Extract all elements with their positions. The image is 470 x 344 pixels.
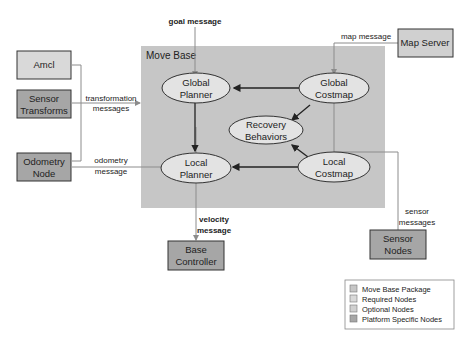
svg-text:message: message bbox=[197, 226, 232, 235]
svg-text:Behaviors: Behaviors bbox=[245, 131, 287, 142]
svg-text:Local: Local bbox=[323, 156, 346, 167]
svg-text:Planner: Planner bbox=[180, 89, 213, 100]
navigation-stack-diagram: Move Base Global Planner Global bbox=[0, 0, 470, 344]
svg-text:Move Base Package: Move Base Package bbox=[362, 285, 431, 294]
sensor-transforms-node: Sensor Transforms bbox=[17, 90, 71, 118]
svg-text:Sensor: Sensor bbox=[383, 233, 413, 244]
local-costmap-node: Local Costmap bbox=[298, 152, 370, 182]
svg-text:Costmap: Costmap bbox=[315, 168, 353, 179]
svg-text:Map Server: Map Server bbox=[400, 37, 449, 48]
svg-text:Global: Global bbox=[182, 77, 209, 88]
velocity-message-label: velocity bbox=[199, 215, 229, 224]
svg-text:Amcl: Amcl bbox=[33, 59, 54, 70]
svg-text:Local: Local bbox=[185, 157, 208, 168]
map-message-label: map message bbox=[341, 32, 392, 41]
svg-text:Required Nodes: Required Nodes bbox=[362, 295, 416, 304]
svg-text:messages: messages bbox=[399, 218, 435, 227]
svg-text:Optional Nodes: Optional Nodes bbox=[362, 305, 414, 314]
svg-text:Transforms: Transforms bbox=[20, 105, 68, 116]
base-controller-node: Base Controller bbox=[168, 241, 224, 270]
svg-text:Node: Node bbox=[33, 168, 56, 179]
svg-text:Nodes: Nodes bbox=[384, 245, 412, 256]
amcl-node: Amcl bbox=[17, 51, 71, 79]
svg-text:Recovery: Recovery bbox=[246, 119, 286, 130]
svg-text:Costmap: Costmap bbox=[315, 89, 353, 100]
map-server-node: Map Server bbox=[398, 29, 453, 57]
svg-text:Planner: Planner bbox=[180, 169, 213, 180]
global-planner-node: Global Planner bbox=[162, 73, 230, 103]
sensor-messages-label: sensor bbox=[405, 207, 429, 216]
legend: Move Base Package Required Nodes Optiona… bbox=[345, 280, 454, 329]
local-planner-node: Local Planner bbox=[161, 153, 231, 183]
odometry-message-label: odometry bbox=[94, 156, 127, 165]
svg-text:Odometry: Odometry bbox=[23, 156, 65, 167]
svg-text:Global: Global bbox=[320, 77, 347, 88]
global-costmap-node: Global Costmap bbox=[299, 73, 369, 103]
svg-text:Sensor: Sensor bbox=[29, 93, 59, 104]
svg-text:Controller: Controller bbox=[175, 256, 216, 267]
svg-text:Base: Base bbox=[185, 244, 207, 255]
recovery-behaviors-node: Recovery Behaviors bbox=[229, 116, 303, 144]
sensor-nodes-node: Sensor Nodes bbox=[370, 230, 426, 259]
transformation-messages-label: transformation bbox=[85, 94, 136, 103]
odometry-node: Odometry Node bbox=[17, 153, 71, 181]
svg-text:messages: messages bbox=[93, 104, 129, 113]
svg-text:Platform Specific Nodes: Platform Specific Nodes bbox=[362, 315, 442, 324]
goal-message-label: goal message bbox=[169, 17, 222, 26]
svg-text:message: message bbox=[95, 167, 128, 176]
move-base-label: Move Base bbox=[146, 50, 196, 61]
